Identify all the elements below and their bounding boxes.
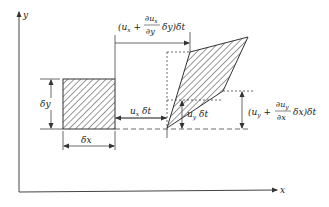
x-axis (19, 190, 277, 192)
svg-text:(uy +: (uy + (248, 107, 271, 119)
svg-text:(ux +: (ux + (118, 22, 141, 33)
top-shift-annotation: (ux + ∂ux ∂y δy)δt (115, 14, 190, 52)
dim-delta-y: δy (40, 79, 63, 129)
svg-text:∂ux: ∂ux (145, 14, 158, 24)
ux-dt-annotation: ux δt (115, 106, 167, 118)
svg-text:uy δt: uy δt (187, 109, 208, 121)
original-element (63, 79, 115, 129)
right-shift-annotation: (uy + ∂uy ∂x δx)δt (242, 92, 316, 128)
dim-delta-x: δx (63, 131, 115, 150)
fluid-element-diagram: y x δy δx (ux + (0, 0, 329, 207)
svg-text:ux δt: ux δt (130, 106, 151, 117)
y-axis-label: y (22, 10, 29, 20)
delta-y-label: δy (40, 99, 51, 109)
svg-text:δx)δt: δx)δt (293, 107, 316, 117)
svg-text:∂uy: ∂uy (276, 100, 289, 111)
delta-x-label: δx (81, 135, 92, 145)
svg-text:∂x: ∂x (277, 113, 286, 122)
svg-text:δy)δt: δy)δt (162, 22, 185, 32)
x-axis-label: x (280, 185, 285, 195)
svg-text:∂y: ∂y (146, 27, 155, 36)
